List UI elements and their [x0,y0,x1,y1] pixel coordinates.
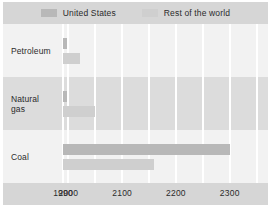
category-label-coal: Coal [11,152,63,162]
legend-label-rest-of-world: Rest of the world [164,8,230,18]
bar-natural-gas-rest-of-the-world [63,106,95,117]
category-label-line: Petroleum [11,46,63,56]
plot-area: PetroleumNaturalgasCoal [3,24,268,183]
legend-swatch-rest-of-world [142,9,158,17]
category-label-petroleum: Petroleum [11,46,63,56]
legend-label-united-states: United States [63,8,116,18]
bar-coal-rest-of-the-world [63,159,154,170]
gridline [175,24,177,183]
category-label-line: Natural [11,94,63,104]
gridline [202,24,204,183]
chart-legend: United States Rest of the world [3,2,268,24]
x-axis: 19902000210022002300 [3,183,268,205]
x-tick-2200: 2200 [166,188,186,198]
fossil-fuel-reserves-bar-chart: United States Rest of the world Petroleu… [0,0,272,210]
category-label-natural-gas: Naturalgas [11,94,63,114]
x-tick-2000: 2000 [59,188,79,198]
bar-natural-gas-united-states [63,91,67,102]
bar-coal-united-states [63,144,230,155]
gridline [229,24,231,183]
bar-petroleum-united-states [63,38,67,49]
x-tick-2300: 2300 [220,188,240,198]
legend-item-rest-of-world: Rest of the world [142,8,230,18]
category-label-line: gas [11,104,63,114]
gridline [256,24,258,183]
legend-item-united-states: United States [41,8,116,18]
bar-petroleum-rest-of-the-world [63,53,80,64]
category-label-line: Coal [11,152,63,162]
x-tick-2100: 2100 [112,188,132,198]
legend-swatch-united-states [41,9,57,17]
